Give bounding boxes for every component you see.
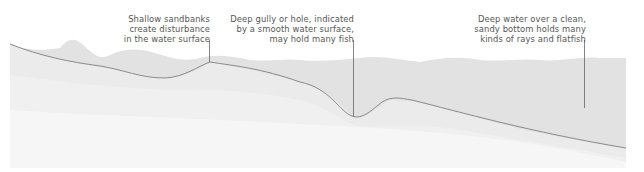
- annotation-deep-water: Deep water over a clean, sandy bottom ho…: [474, 14, 586, 44]
- annotation-sandbanks: Shallow sandbanks create disturbance in …: [124, 14, 210, 44]
- annotation-gully: Deep gully or hole, indicated by a smoot…: [230, 14, 354, 44]
